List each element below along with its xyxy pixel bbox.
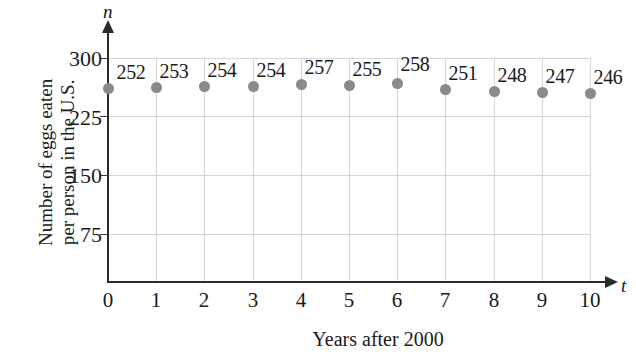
x-tick-label-6: 6 [377, 288, 417, 313]
data-point-label: 247 [537, 65, 583, 88]
x-tick-label-1: 1 [136, 288, 176, 313]
y-axis-title: Number of eggs eaten per person in the U… [35, 37, 80, 287]
chart-figure: n t 300 225 150 75 0 1 2 3 4 5 6 7 8 9 1… [0, 0, 636, 361]
y-axis-title-line-1: Number of eggs eaten [35, 37, 57, 287]
data-point [585, 88, 596, 99]
data-point [489, 86, 500, 97]
data-point [248, 81, 259, 92]
gridline-x-2 [204, 58, 205, 282]
x-tick-label-5: 5 [329, 288, 369, 313]
gridline-x-5 [349, 58, 350, 282]
x-axis-line [107, 281, 609, 283]
gridline-x-3 [253, 58, 254, 282]
data-point [199, 81, 210, 92]
data-point-label: 251 [440, 62, 486, 85]
data-point [344, 80, 355, 91]
y-axis-title-line-2: per person in the U.S. [57, 37, 79, 287]
data-point-label: 252 [108, 61, 154, 84]
data-point [537, 87, 548, 98]
data-point-label: 248 [489, 64, 535, 87]
x-tick-label-8: 8 [474, 288, 514, 313]
gridline-x-6 [397, 58, 398, 282]
data-point [103, 83, 114, 94]
plot-area [108, 58, 590, 282]
x-tick-label-7: 7 [425, 288, 465, 313]
data-point-label: 257 [296, 56, 342, 79]
data-point [392, 78, 403, 89]
data-point [440, 84, 451, 95]
data-point-label: 258 [392, 53, 438, 76]
data-point-label: 246 [585, 66, 631, 89]
data-point-label: 254 [248, 59, 294, 82]
x-tick-label-4: 4 [281, 288, 321, 313]
x-axis-variable: t [621, 275, 626, 297]
x-axis-title: Years after 2000 [178, 328, 578, 351]
x-tick-label-2: 2 [184, 288, 224, 313]
x-tick-label-10: 10 [570, 288, 610, 313]
x-tick-label-3: 3 [233, 288, 273, 313]
y-axis-variable: n [103, 1, 113, 23]
x-tick-label-9: 9 [522, 288, 562, 313]
data-point-label: 254 [199, 59, 245, 82]
gridline-x-4 [301, 58, 302, 282]
data-point-label: 255 [344, 58, 390, 81]
data-point-label: 253 [151, 60, 197, 83]
data-point [296, 79, 307, 90]
x-tick-label-0: 0 [88, 288, 128, 313]
x-axis-arrow-icon [605, 276, 618, 288]
